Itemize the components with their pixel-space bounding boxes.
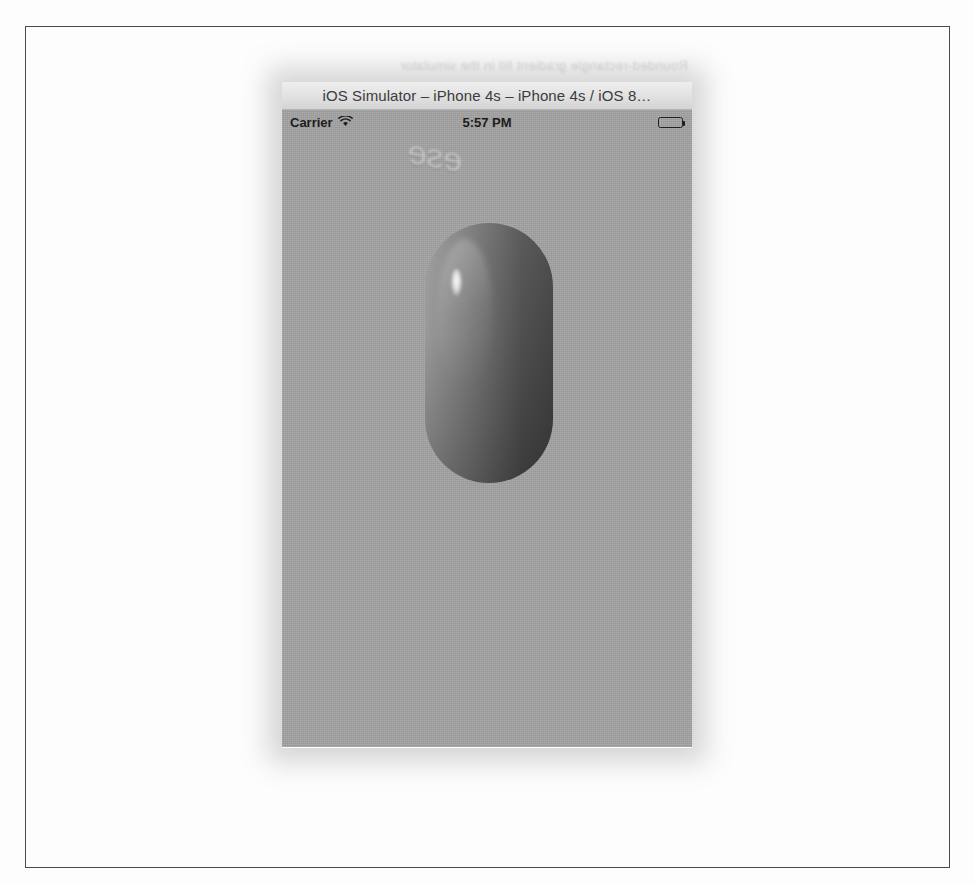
ios-status-bar: Carrier 5:57 PM <box>282 110 692 134</box>
capsule-shape-fill <box>425 223 553 483</box>
status-bar-right <box>658 117 683 128</box>
bleed-through-scribble: ese <box>346 123 465 215</box>
battery-cap <box>683 121 685 126</box>
ios-simulator-window[interactable]: iOS Simulator – iPhone 4s – iPhone 4s / … <box>282 82 692 748</box>
specular-highlight <box>451 269 462 296</box>
window-title: iOS Simulator – iPhone 4s – iPhone 4s / … <box>323 87 652 104</box>
status-bar-time: 5:57 PM <box>282 115 692 130</box>
scanned-page: Rounded-rectangle gradient fill in the s… <box>0 0 974 884</box>
battery-full-icon <box>658 117 683 128</box>
gradient-rounded-rectangle <box>425 223 553 483</box>
device-screen[interactable]: Carrier 5:57 PM <box>282 110 692 747</box>
window-title-bar[interactable]: iOS Simulator – iPhone 4s – iPhone 4s / … <box>282 82 692 110</box>
